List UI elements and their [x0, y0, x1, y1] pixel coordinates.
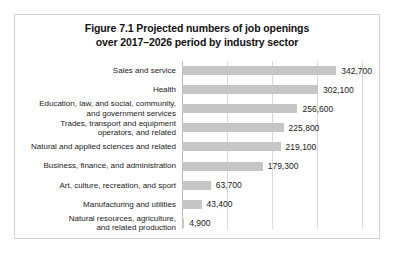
bar-value-label: 63,700 — [216, 180, 242, 190]
category-label: Art, culture, recreation, and sport — [16, 181, 176, 190]
bar — [182, 85, 318, 94]
bar — [182, 142, 281, 151]
bar-value-label: 219,100 — [286, 142, 317, 152]
bar-track: 342,700 — [182, 61, 381, 80]
bar — [182, 200, 202, 209]
bar-track: 63,700 — [182, 176, 381, 195]
bar-row: Natural resources, agriculture, and rela… — [15, 214, 381, 233]
bar-track: 225,800 — [182, 118, 381, 137]
category-label: Education, law, and social, community, a… — [16, 99, 176, 118]
bar-track: 302,100 — [182, 80, 381, 99]
bar-row: Manufacturing and utilities43,400 — [15, 195, 381, 214]
bar-rows: Sales and service342,700Health302,100Edu… — [15, 61, 381, 233]
category-label: Health — [16, 85, 176, 94]
category-label: Business, finance, and administration — [16, 161, 176, 170]
chart-title-line-2: over 2017–2026 period by industry sector — [15, 36, 379, 50]
bar-value-label: 342,700 — [341, 66, 372, 76]
category-label: Natural resources, agriculture, and rela… — [16, 214, 176, 233]
bar-value-label: 256,600 — [302, 104, 333, 114]
bar-row: Education, law, and social, community, a… — [15, 99, 381, 118]
bar-row: Health302,100 — [15, 80, 381, 99]
bar-row: Art, culture, recreation, and sport63,70… — [15, 176, 381, 195]
bar-value-label: 302,100 — [323, 85, 354, 95]
bar — [182, 219, 184, 228]
bar-row: Business, finance, and administration179… — [15, 157, 381, 176]
bar-row: Sales and service342,700 — [15, 61, 381, 80]
bar-track: 179,300 — [182, 157, 381, 176]
bar — [182, 104, 297, 113]
bar-value-label: 179,300 — [268, 161, 299, 171]
figure-container: Figure 7.1 Projected numbers of job open… — [14, 14, 380, 239]
bar-value-label: 43,400 — [207, 199, 233, 209]
bar-track: 4,900 — [182, 214, 381, 233]
bar — [182, 181, 211, 190]
category-label: Manufacturing and utilities — [16, 200, 176, 209]
bar-row: Trades, transport and equipment operator… — [15, 118, 381, 137]
plot-area: Sales and service342,700Health302,100Edu… — [15, 61, 381, 233]
bar — [182, 162, 263, 171]
bar-value-label: 4,900 — [189, 218, 210, 228]
bar-track: 219,100 — [182, 137, 381, 156]
bar — [182, 66, 336, 75]
bar-track: 256,600 — [182, 99, 381, 118]
bar-row: Natural and applied sciences and related… — [15, 137, 381, 156]
category-label: Trades, transport and equipment operator… — [16, 119, 176, 138]
bar — [182, 123, 284, 132]
category-label: Natural and applied sciences and related — [16, 142, 176, 151]
chart-title-line-1: Figure 7.1 Projected numbers of job open… — [15, 22, 379, 36]
category-label: Sales and service — [16, 66, 176, 75]
bar-track: 43,400 — [182, 195, 381, 214]
bar-value-label: 225,800 — [289, 123, 320, 133]
chart-title: Figure 7.1 Projected numbers of job open… — [15, 22, 379, 49]
